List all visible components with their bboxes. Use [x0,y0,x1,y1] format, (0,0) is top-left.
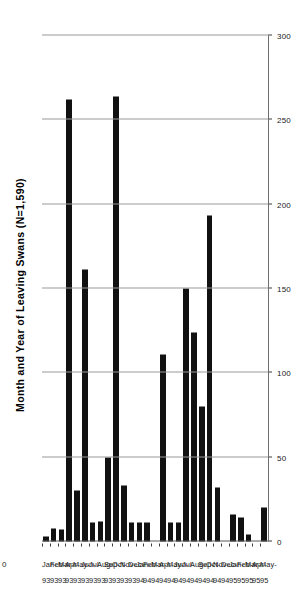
category-label-item: Dec-93 [128,543,136,589]
bar [160,354,166,541]
category-tick [245,543,246,546]
category-tick [237,543,238,546]
bar [207,215,213,541]
value-axis-label: 200 [277,200,291,209]
bar [51,528,57,541]
gridline-100 [42,371,268,372]
category-tick [104,543,105,546]
category-label-item: Apr-94 [159,543,167,589]
category-label-item: Jul-94 [182,543,190,589]
bar [82,269,88,541]
category-tick [112,543,113,546]
bar-chart-figure: Month and Year of Leaving Swans (N=1,590… [0,0,308,589]
category-tick [190,543,191,546]
bar [105,457,111,541]
origin-marker: 0 [2,560,6,569]
category-tick [97,543,98,546]
category-label-item: Jan-95 [229,543,237,589]
category-label-item: May-95 [260,543,268,589]
bar [191,332,197,541]
value-axis-label: 50 [277,453,286,462]
bar [215,487,221,541]
category-label-item: Feb-95 [237,543,245,589]
bar [183,288,189,541]
value-axis-label: 100 [277,368,291,377]
category-label-item: Mar-94 [151,543,159,589]
category-tick [128,543,129,546]
category-tick [50,543,51,546]
bar [144,522,150,541]
bar [121,485,127,541]
bar [199,406,205,541]
value-axis-labels: 050100150200250300 [275,35,305,541]
gridline-200 [42,203,268,204]
category-label-item: Apr-93 [65,543,73,589]
category-label-item: Jun-93 [81,543,89,589]
category-label-item: Aug-94 [190,543,198,589]
category-tick [198,543,199,546]
category-label-item: May-93 [73,543,81,589]
category-tick [136,543,137,546]
category-tick [58,543,59,546]
category-label-item: Jan-93 [42,543,50,589]
value-axis-label: 0 [277,537,282,546]
category-label-item: Dec-94 [221,543,229,589]
category-tick [143,543,144,546]
bar [66,99,72,541]
bar [90,522,96,541]
chart-title: Month and Year of Leaving Swans (N=1,590… [14,0,26,589]
bar [59,529,65,541]
category-tick [213,543,214,546]
value-axis-label: 300 [277,31,291,40]
category-axis-labels: Jan-93Feb-93Mar-93Apr-93May-93Jun-93Jul-… [42,543,268,589]
bar [261,507,267,541]
category-label-item: Sep-94 [198,543,206,589]
value-axis-label: 150 [277,284,291,293]
plot-area [42,35,268,541]
category-tick [206,543,207,546]
gridline-300 [42,34,268,35]
category-tick [65,543,66,546]
bar [137,522,143,541]
category-tick [167,543,168,546]
bar [74,490,80,541]
bar [168,522,174,541]
category-tick [81,543,82,546]
category-label-item: Feb-93 [50,543,58,589]
category-tick [252,543,253,546]
bar [98,521,104,541]
category-year-label: 95 [260,575,268,584]
category-tick [73,543,74,546]
category-tick [229,543,230,546]
category-tick [151,543,152,546]
bar [230,514,236,541]
category-tick [182,543,183,546]
rotated-figure-container: Month and Year of Leaving Swans (N=1,590… [0,0,308,589]
gridline-0 [42,540,268,541]
category-label-item: Nov-93 [120,543,128,589]
category-label-item: Oct-93 [112,543,120,589]
category-label-item: Sep-93 [104,543,112,589]
category-label-item: Feb-94 [143,543,151,589]
gridline-50 [42,456,268,457]
category-label-item: Jul-93 [89,543,97,589]
bar [113,96,119,541]
gridline-250 [42,118,268,119]
bar [176,522,182,541]
value-axis-label: 250 [277,115,291,124]
category-tick [159,543,160,546]
category-tick [120,543,121,546]
category-month-label: May- [260,559,277,568]
bar [129,522,135,541]
plot-inner [42,35,268,541]
category-tick [89,543,90,546]
chart-screenshot: Month and Year of Leaving Swans (N=1,590… [0,0,308,589]
gridline-150 [42,287,268,288]
category-tick [174,543,175,546]
category-axis-line [268,35,269,541]
bar [238,517,244,541]
category-tick [42,543,43,546]
category-tick [221,543,222,546]
category-tick [260,543,261,546]
